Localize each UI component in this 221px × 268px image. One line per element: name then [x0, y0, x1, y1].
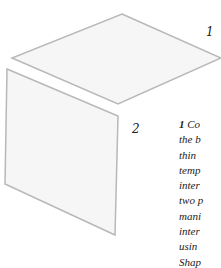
caption-line-0: 1 Co — [179, 117, 221, 132]
caption-line-2: thin — [179, 148, 221, 163]
caption-line-9: Shap — [179, 255, 221, 268]
caption-line-7: inter — [179, 224, 221, 239]
shape-label-1: 1 — [206, 25, 214, 39]
caption-line-6: mani — [179, 209, 221, 224]
caption-line-3: temp — [179, 163, 221, 178]
caption-line-8: usin — [179, 239, 221, 254]
shape-label-2: 2 — [132, 122, 140, 136]
caption-line-4: inter — [179, 178, 221, 193]
caption-text: 1 Co the b thin temp inter two p mani in… — [179, 117, 221, 268]
caption-line-1: the b — [179, 132, 221, 147]
caption-line-5: two p — [179, 193, 221, 208]
